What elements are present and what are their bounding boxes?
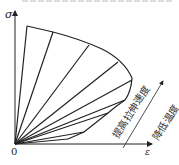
- y-axis-label: σ: [5, 8, 13, 21]
- x-axis-label: ε: [145, 147, 150, 157]
- stress-strain-diagram: [0, 0, 179, 165]
- origin-label: 0: [11, 146, 17, 157]
